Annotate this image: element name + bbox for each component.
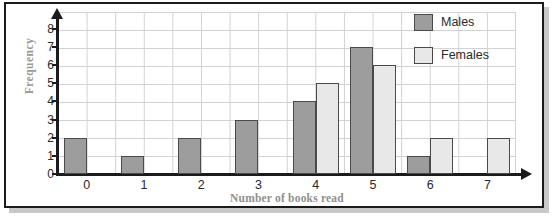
males-swatch-icon (414, 14, 433, 31)
y-tick-mark (52, 100, 59, 102)
y-tick-mark (52, 46, 59, 48)
bar-females-7 (487, 138, 510, 174)
y-tick-mark (52, 82, 59, 84)
x-tick-label: 7 (467, 178, 507, 192)
y-tick-label: 3 (10, 114, 54, 126)
bar-chart: 012345678 01234567 Frequency Number of b… (6, 4, 542, 206)
bar-females-6 (430, 138, 453, 174)
bar-males-6 (407, 156, 430, 174)
females-swatch-icon (414, 47, 433, 64)
x-tick-label: 1 (124, 178, 164, 192)
legend-label-males: Males (441, 14, 474, 31)
bar-males-1 (121, 156, 144, 174)
x-tick-label: 3 (238, 178, 278, 192)
y-tick-label: 2 (10, 132, 54, 144)
y-tick-label: 0 (10, 168, 54, 180)
legend-label-females: Females (441, 47, 489, 64)
x-axis-arrow-icon (521, 168, 532, 180)
y-axis-line (56, 18, 59, 174)
chart-legend: Males Females (414, 12, 524, 78)
x-tick-label: 2 (181, 178, 221, 192)
bar-males-3 (235, 120, 258, 174)
bar-females-5 (373, 65, 396, 174)
y-tick-mark (52, 28, 59, 30)
bar-males-4 (293, 101, 316, 174)
legend-item-females: Females (414, 45, 524, 78)
bar-males-0 (64, 138, 87, 174)
figure-frame: 012345678 01234567 Frequency Number of b… (4, 2, 544, 208)
x-tick-label: 4 (296, 178, 336, 192)
bar-females-4 (316, 83, 339, 174)
x-tick-label: 6 (410, 178, 450, 192)
y-tick-mark (52, 119, 59, 121)
y-tick-mark (52, 137, 59, 139)
x-axis-title: Number of books read (58, 192, 516, 204)
y-tick-mark (52, 173, 59, 175)
x-tick-label: 5 (353, 178, 393, 192)
bar-males-5 (350, 47, 373, 174)
x-tick-label: 0 (67, 178, 107, 192)
y-tick-label: 1 (10, 150, 54, 162)
legend-item-males: Males (414, 12, 524, 45)
bar-males-2 (178, 138, 201, 174)
y-tick-mark (52, 155, 59, 157)
y-axis-title: Frequency (23, 21, 35, 111)
y-tick-mark (52, 64, 59, 66)
